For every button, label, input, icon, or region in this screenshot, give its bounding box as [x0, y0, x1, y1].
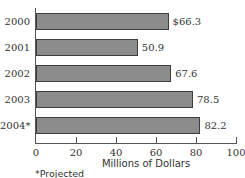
x-axis	[35, 143, 237, 144]
value-label: 50.9	[142, 39, 164, 57]
bar	[36, 117, 200, 134]
value-label: $66.3	[173, 13, 202, 31]
bar	[36, 13, 169, 30]
x-tick	[236, 137, 237, 143]
value-label: 67.6	[175, 65, 197, 83]
x-axis-label: Millions of Dollars	[76, 158, 216, 169]
value-label: 82.2	[204, 117, 226, 135]
category-label: 2000	[0, 13, 30, 31]
x-tick	[196, 137, 197, 143]
x-tick-label: 0	[21, 147, 51, 158]
x-tick-label: 20	[61, 147, 91, 158]
category-label: 2002	[0, 65, 30, 83]
category-label: 2003	[0, 91, 30, 109]
bar	[36, 65, 171, 82]
category-label: 2004*	[0, 117, 30, 135]
x-tick	[76, 137, 77, 143]
x-tick	[116, 137, 117, 143]
x-tick-label: 80	[181, 147, 211, 158]
x-tick-label: 40	[101, 147, 131, 158]
x-tick-label: 60	[141, 147, 171, 158]
x-tick	[156, 137, 157, 143]
x-tick-label: 100	[221, 147, 245, 158]
category-label: 2001	[0, 39, 30, 57]
bar-chart: 2000$66.3200150.9200267.6200378.52004*82…	[0, 0, 245, 178]
value-label: 78.5	[197, 91, 219, 109]
footnote: *Projected	[35, 168, 84, 178]
bar	[36, 39, 138, 56]
bar	[36, 91, 193, 108]
